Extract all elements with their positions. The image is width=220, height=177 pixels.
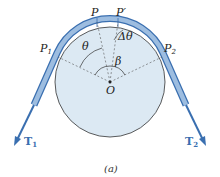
label-p-prime: P′ xyxy=(115,6,126,19)
label-p: P xyxy=(90,6,99,19)
label-p2: P2 xyxy=(163,42,176,56)
label-t2: T2 xyxy=(185,135,198,149)
caption: (a) xyxy=(104,163,118,174)
label-t1: T1 xyxy=(24,135,37,149)
belt-friction-diagram: P P′ P1 P2 θ Δθ β O T1 T2 (a) xyxy=(0,0,220,177)
label-delta-theta: Δθ xyxy=(117,30,133,43)
label-p1: P1 xyxy=(39,42,52,56)
label-origin: O xyxy=(106,84,115,97)
label-beta: β xyxy=(114,55,121,68)
label-theta: θ xyxy=(82,40,89,53)
